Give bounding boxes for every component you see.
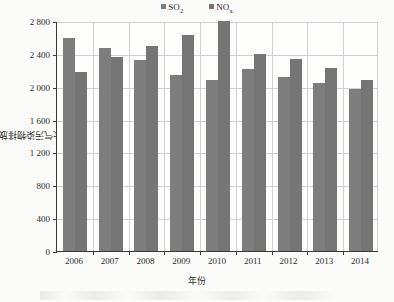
x-axis-tick-label: 2013 <box>315 256 333 266</box>
bar-so2-2008 <box>134 60 146 251</box>
y-axis-tick <box>53 153 57 154</box>
x-axis-tick <box>343 251 344 255</box>
bar-so2-2007 <box>99 48 111 251</box>
y-axis-tick-label: 1 600 <box>4 116 50 126</box>
bar-so2-2014 <box>349 89 361 251</box>
y-axis-tick <box>53 121 57 122</box>
y-axis-tick <box>53 55 57 56</box>
bar-nox-2006 <box>75 72 87 251</box>
y-axis-tick-label: 0 <box>4 247 50 257</box>
x-axis-tick-labels: 200620072008200920102011201220132014 <box>56 256 378 270</box>
bar-so2-2011 <box>242 69 254 251</box>
bar-nox-2011 <box>254 54 266 251</box>
bar-group <box>164 22 200 251</box>
y-axis-tick <box>53 252 57 253</box>
x-axis-tick-label: 2014 <box>351 256 369 266</box>
y-axis-tick-label: 2 400 <box>4 50 50 60</box>
bar-nox-2013 <box>325 68 337 251</box>
x-axis-tick-label: 2009 <box>172 256 190 266</box>
bar-group <box>236 22 272 251</box>
x-axis-tick <box>236 251 237 255</box>
bar-nox-2008 <box>146 46 158 251</box>
chart-figure: SO2 NOx 大气污染物排放量/万t 04008001 2001 6002 0… <box>0 0 394 302</box>
legend-swatch-so2 <box>161 4 166 9</box>
legend-label-so2: SO2 <box>168 2 183 14</box>
bar-series-container <box>57 22 378 251</box>
bar-so2-2012 <box>278 77 290 251</box>
x-axis-tick <box>272 251 273 255</box>
bar-so2-2010 <box>206 80 218 251</box>
legend-label-nox: NOx <box>216 2 233 14</box>
x-axis-tick-label: 2006 <box>65 256 83 266</box>
x-axis-tick-label: 2008 <box>136 256 154 266</box>
y-axis-tick <box>53 186 57 187</box>
bar-group <box>57 22 93 251</box>
bar-group <box>129 22 165 251</box>
x-axis-title: 年份 <box>0 274 394 287</box>
plot-area <box>56 22 378 252</box>
y-axis-tick <box>53 22 57 23</box>
x-axis-tick-label: 2007 <box>101 256 119 266</box>
scan-artifact <box>40 291 360 300</box>
x-axis-tick-label: 2010 <box>208 256 226 266</box>
bar-nox-2007 <box>111 57 123 251</box>
bar-nox-2012 <box>290 59 302 251</box>
bar-group <box>93 22 129 251</box>
x-axis-tick <box>164 251 165 255</box>
bar-nox-2014 <box>361 80 373 251</box>
x-axis-tick <box>307 251 308 255</box>
bar-group <box>307 22 343 251</box>
y-axis-tick <box>53 219 57 220</box>
y-axis-tick <box>53 88 57 89</box>
legend-swatch-nox <box>209 4 214 9</box>
y-axis-tick-label: 1 200 <box>4 148 50 158</box>
y-axis-tick-label: 2 800 <box>4 17 50 27</box>
y-axis-tick-labels: 04008001 2001 6002 0002 4002 800 <box>0 22 50 252</box>
x-axis-tick <box>129 251 130 255</box>
bar-group <box>343 22 379 251</box>
bar-so2-2013 <box>313 83 325 251</box>
bar-nox-2009 <box>182 35 194 251</box>
y-axis-tick-label: 800 <box>4 181 50 191</box>
x-axis-tick <box>200 251 201 255</box>
legend-item-so2: SO2 <box>161 2 183 14</box>
x-axis-tick-label: 2012 <box>280 256 298 266</box>
bar-group <box>200 22 236 251</box>
bar-nox-2010 <box>218 21 230 251</box>
chart-legend: SO2 NOx <box>0 2 394 14</box>
x-axis-tick-label: 2011 <box>244 256 262 266</box>
bar-so2-2006 <box>63 38 75 251</box>
y-axis-tick-label: 400 <box>4 214 50 224</box>
bar-so2-2009 <box>170 75 182 251</box>
bar-group <box>272 22 308 251</box>
y-axis-tick-label: 2 000 <box>4 83 50 93</box>
legend-item-nox: NOx <box>209 2 233 14</box>
x-axis-tick <box>93 251 94 255</box>
